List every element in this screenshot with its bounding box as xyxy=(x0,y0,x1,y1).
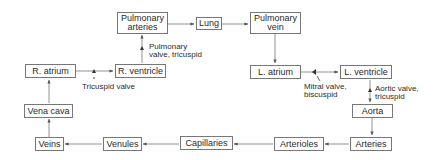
tricuspid-valve-dot-icon xyxy=(93,77,95,79)
node-l-ventricle: L. ventricle xyxy=(340,65,392,79)
label-aortic-valve: Aortic valve, tricuspid xyxy=(375,85,419,101)
node-arteries: Arteries xyxy=(350,137,392,151)
node-aorta: Aorta xyxy=(352,104,393,118)
label-mitral-valve: Mitral valve, biscuspid xyxy=(304,83,347,99)
aortic-valve-icon xyxy=(368,88,372,92)
label-pulmonary-valve: Pulmonary valve, tricuspid xyxy=(149,43,202,59)
node-l-atrium: L. atrium xyxy=(250,65,301,79)
node-r-atrium: R. atrium xyxy=(25,64,76,78)
node-arterioles: Arterioles xyxy=(274,137,324,151)
node-capillaries: Capillaries xyxy=(180,136,233,150)
node-pulmonary-arteries: Pulmonary arteries xyxy=(117,12,168,34)
pulmonary-valve-icon xyxy=(140,46,144,50)
node-pulmonary-vein: Pulmonary vein xyxy=(250,12,301,34)
mitral-valve-pointer-icon xyxy=(317,76,320,81)
node-vena-cava: Vena cava xyxy=(24,104,73,118)
node-lung: Lung xyxy=(196,17,222,30)
label-tricuspid-valve: Tricuspid valve xyxy=(82,83,135,91)
node-venules: Venules xyxy=(103,137,142,151)
node-veins: Veins xyxy=(35,137,64,151)
node-r-ventricle: R. ventricle xyxy=(115,64,166,78)
mitral-valve-icon xyxy=(312,69,316,75)
